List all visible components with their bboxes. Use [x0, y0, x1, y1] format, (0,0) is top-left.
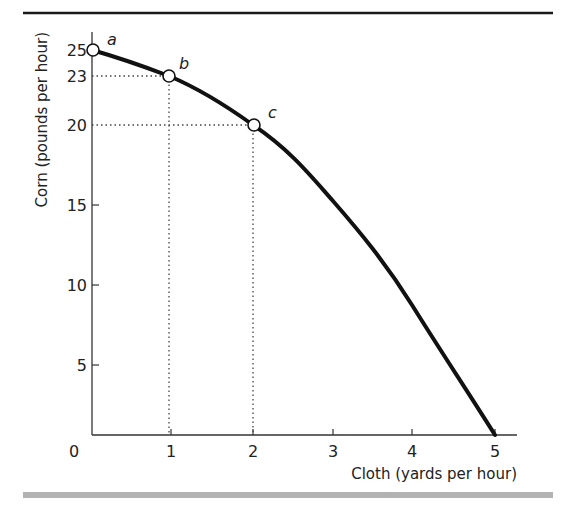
guide-lines — [92, 76, 253, 435]
x-tick-2: 2 — [248, 442, 258, 461]
bottom-rule — [23, 492, 553, 498]
point-b-marker — [163, 70, 175, 82]
x-tick-3: 3 — [328, 442, 338, 461]
y-tick-23: 23 — [67, 67, 87, 86]
x-tick-4: 4 — [407, 442, 417, 461]
point-c-label: c — [268, 103, 277, 122]
origin-label: 0 — [69, 442, 79, 461]
y-tick-labels: 25 23 20 15 10 5 — [67, 41, 87, 375]
x-ticks — [171, 429, 495, 435]
point-b-label: b — [179, 54, 189, 73]
x-tick-5: 5 — [490, 442, 500, 461]
y-tick-15: 15 — [67, 196, 87, 215]
y-axis-title: Corn (pounds per hour) — [33, 32, 51, 207]
y-tick-25: 25 — [67, 41, 87, 60]
ppf-chart: a b c 25 23 20 15 10 5 0 1 2 3 4 5 Cloth… — [0, 0, 565, 509]
y-tick-5: 5 — [77, 356, 87, 375]
y-ticks — [92, 205, 99, 365]
point-c-marker — [248, 119, 260, 131]
x-axis-title: Cloth (yards per hour) — [351, 465, 517, 483]
x-tick-labels: 0 1 2 3 4 5 — [69, 442, 500, 461]
x-tick-1: 1 — [166, 442, 176, 461]
point-a-marker — [87, 44, 99, 56]
y-tick-20: 20 — [67, 116, 87, 135]
point-a-label: a — [107, 30, 117, 49]
ppf-curve — [92, 50, 495, 435]
y-tick-10: 10 — [67, 276, 87, 295]
